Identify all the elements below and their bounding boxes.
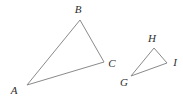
figure-svg [0, 0, 183, 103]
vertex-label-b: B [75, 4, 82, 15]
vertex-label-h: H [148, 33, 156, 44]
vertex-label-a: A [11, 85, 18, 96]
vertex-label-g: G [120, 77, 128, 88]
geometry-figure: A B C G H I [0, 0, 183, 103]
vertex-label-c: C [108, 58, 115, 69]
triangle-ghi-shape [131, 48, 167, 76]
triangle-abc-shape [27, 20, 104, 85]
vertex-label-i: I [173, 57, 177, 68]
